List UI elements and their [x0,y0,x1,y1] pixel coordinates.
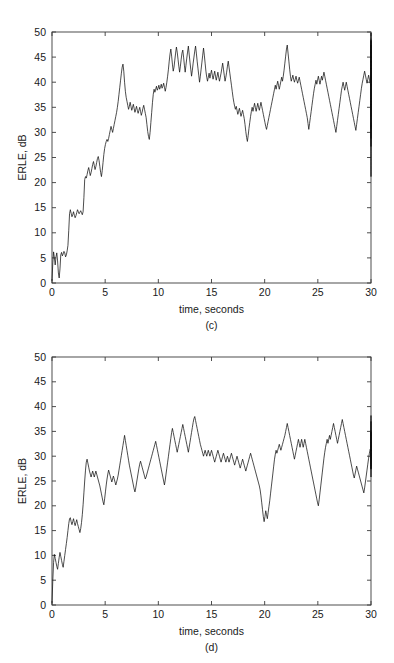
y-axis-title-d: ERLE, dB [16,458,28,504]
y-tick-label-40: 40 [34,76,46,88]
figure-page: 05101520253035404550051015202530ERLE, dB… [0,0,394,663]
chart-figure-c: 05101520253035404550051015202530ERLE, dB… [0,0,394,340]
y-tick-label-20: 20 [34,499,46,511]
x-tick-label-30: 30 [365,608,377,620]
x-tick-label-15: 15 [206,286,218,298]
x-axis-title-c: time, seconds [179,303,244,315]
y-tick-label-50: 50 [34,26,46,38]
y-tick-label-35: 35 [34,425,46,437]
y-tick-label-15: 15 [34,524,46,536]
y-tick-label-0: 0 [40,599,46,611]
erle-plot-d: 05101520253035404550051015202530ERLE, dB… [0,325,394,663]
x-tick-label-5: 5 [102,286,108,298]
y-tick-label-50: 50 [34,351,46,363]
x-tick-label-25: 25 [312,286,324,298]
x-tick-label-15: 15 [206,608,218,620]
y-tick-label-0: 0 [40,277,46,289]
x-axis-title-d: time, seconds [179,625,244,637]
plot-box-d [52,357,371,605]
erle-plot-c: 05101520253035404550051015202530ERLE, dB… [0,0,394,340]
x-tick-label-0: 0 [49,608,55,620]
x-tick-label-20: 20 [259,286,271,298]
data-series-c-0 [52,33,371,280]
y-tick-label-5: 5 [40,574,46,586]
y-tick-label-15: 15 [34,201,46,213]
y-tick-label-25: 25 [34,475,46,487]
x-tick-label-30: 30 [365,286,377,298]
y-tick-label-10: 10 [34,226,46,238]
subcaption-d: (d) [205,641,218,653]
data-series-d-0 [52,416,371,603]
x-tick-label-10: 10 [152,286,164,298]
x-tick-label-10: 10 [152,608,164,620]
x-tick-label-25: 25 [312,608,324,620]
x-tick-label-0: 0 [49,286,55,298]
x-tick-label-20: 20 [259,608,271,620]
y-tick-label-30: 30 [34,126,46,138]
y-tick-label-45: 45 [34,375,46,387]
y-tick-label-20: 20 [34,176,46,188]
plot-box-c [52,32,371,283]
y-tick-label-35: 35 [34,101,46,113]
y-axis-title-c: ERLE, dB [16,134,28,180]
y-tick-label-10: 10 [34,549,46,561]
chart-figure-d: 05101520253035404550051015202530ERLE, dB… [0,325,394,663]
x-tick-label-5: 5 [102,608,108,620]
y-tick-label-45: 45 [34,51,46,63]
y-tick-label-30: 30 [34,450,46,462]
y-tick-label-5: 5 [40,252,46,264]
y-tick-label-25: 25 [34,151,46,163]
y-tick-label-40: 40 [34,400,46,412]
